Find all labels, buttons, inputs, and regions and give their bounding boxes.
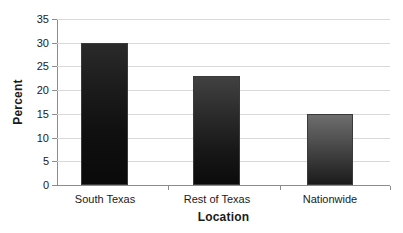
x-category-label-nationwide: Nationwide [303,193,357,205]
x-tick-separator [280,186,281,190]
y-tick-label-10: 10 [21,132,49,144]
y-tick-label-15: 15 [21,108,49,120]
y-tick-label-25: 25 [21,60,49,72]
x-category-label-rest-of-texas: Rest of Texas [184,193,250,205]
bar-south-texas [81,43,128,185]
x-tick-separator [168,186,169,190]
plot-area [57,19,390,185]
y-tick-label-35: 35 [21,13,49,25]
bar-rest-of-texas [193,76,240,185]
y-tick-label-5: 5 [21,155,49,167]
y-tick-label-20: 20 [21,84,49,96]
x-tick-separator [390,186,391,190]
gridline-35 [57,19,390,20]
x-category-label-south-texas: South Texas [75,193,135,205]
x-axis-title: Location [57,210,390,224]
bar-nationwide [307,114,353,185]
bar-chart: Percent 35 30 25 20 15 10 5 0 South Texa… [0,0,403,233]
y-tick-label-30: 30 [21,37,49,49]
y-tick-label-0: 0 [21,179,49,191]
x-axis-baseline [57,185,390,186]
